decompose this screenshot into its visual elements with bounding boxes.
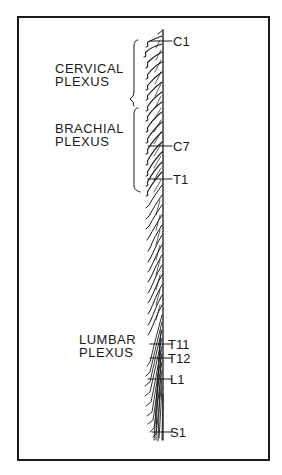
lumbar-plexus-label: LUMBAR PLEXUS [79, 333, 136, 359]
brachial-bracket [134, 108, 140, 192]
lumbar-plexus-line2: PLEXUS [79, 346, 136, 359]
segment-label-c1: C1 [173, 35, 190, 48]
segment-label-t12: T12 [168, 352, 190, 365]
segment-label-l1: L1 [170, 373, 184, 386]
spinal-cord-illustration [0, 0, 282, 475]
segment-label-c7: C7 [173, 140, 190, 153]
cervical-plexus-label: CERVICAL PLEXUS [55, 62, 124, 88]
brachial-plexus-line2: PLEXUS [55, 135, 124, 148]
cervical-plexus-line2: PLEXUS [55, 75, 124, 88]
segment-label-s1: S1 [170, 426, 186, 439]
segment-label-t1: T1 [173, 173, 188, 186]
brachial-plexus-label: BRACHIAL PLEXUS [55, 122, 124, 148]
cervical-bracket [130, 40, 138, 106]
segment-label-t11: T11 [168, 338, 189, 351]
